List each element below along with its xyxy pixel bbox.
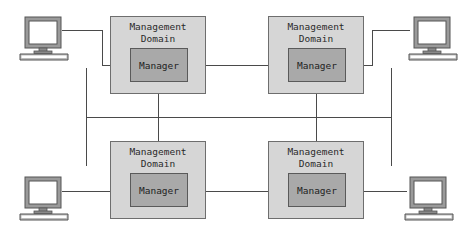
management-domain-top-right: Management Domain Manager: [268, 16, 364, 94]
domain-label: Management Domain: [111, 21, 205, 45]
management-domain-top-left: Management Domain Manager: [110, 16, 206, 94]
manager-node: Manager: [288, 173, 346, 207]
management-domains-diagram: Management Domain Manager Management Dom…: [0, 0, 474, 232]
domain-label: Management Domain: [111, 146, 205, 170]
backbone-horizontal: [86, 117, 392, 118]
manager-label: Manager: [297, 60, 337, 71]
management-domain-bottom-left: Management Domain Manager: [110, 141, 206, 219]
manager-node: Manager: [288, 48, 346, 82]
management-domain-bottom-right: Management Domain Manager: [268, 141, 364, 219]
link-bottom-right-domain-bus: [316, 117, 317, 141]
link-top-left-pc-v: [102, 30, 103, 65]
computer-icon: [18, 176, 70, 222]
manager-label: Manager: [297, 185, 337, 196]
link-top-right-pc-v: [372, 30, 373, 66]
manager-node: Manager: [130, 173, 188, 207]
link-top-left-domain-bus: [158, 94, 159, 117]
link-top-right-pc-h2: [372, 30, 410, 31]
computer-icon: [403, 176, 455, 222]
computer-icon: [18, 16, 70, 62]
manager-label: Manager: [139, 185, 179, 196]
link-top-right-domain-bus: [316, 94, 317, 117]
manager-label: Manager: [139, 60, 179, 71]
computer-icon: [407, 16, 459, 62]
manager-node: Manager: [130, 48, 188, 82]
link-bottom-left-domain-bus: [158, 117, 159, 141]
domain-label: Management Domain: [269, 21, 363, 45]
domain-label: Management Domain: [269, 146, 363, 170]
